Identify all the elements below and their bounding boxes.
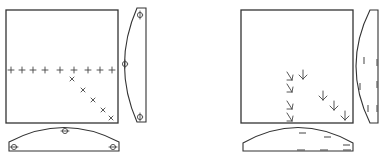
plus-icon [97, 67, 103, 73]
plus-icon [8, 67, 14, 73]
right-square-frame [241, 10, 353, 123]
x-icon [70, 77, 74, 81]
arrow-markers [287, 70, 349, 121]
right-side-lens [356, 10, 378, 123]
plus-icon [71, 67, 77, 73]
diagram-canvas [0, 0, 384, 162]
arrow-down-right-icon [287, 72, 293, 80]
x-icon [109, 116, 113, 120]
plus-icon [30, 67, 36, 73]
left-bottom-lens [9, 128, 119, 152]
bottom-lens-shape [243, 128, 353, 152]
side-lens-shape [356, 10, 378, 123]
cross-marker-diagonal [70, 77, 113, 120]
arrow-down-icon [341, 111, 349, 120]
x-icon [101, 108, 105, 112]
right-panel [241, 10, 378, 151]
arrow-down-icon [299, 70, 307, 79]
plus-icon [109, 67, 115, 73]
diagram-svg [0, 0, 384, 162]
left-side-lens [122, 8, 146, 122]
arrow-down-icon [319, 91, 327, 100]
x-icon [81, 88, 85, 92]
plus-icon [19, 67, 25, 73]
left-square-frame [6, 10, 118, 123]
arrow-down-right-icon [287, 84, 293, 92]
left-panel [6, 8, 146, 151]
right-bottom-lens [243, 128, 353, 152]
plus-icon [57, 67, 63, 73]
arrow-down-icon [330, 101, 338, 110]
arrow-down-right-icon [287, 101, 293, 109]
x-icon [91, 98, 95, 102]
plus-icon [42, 67, 48, 73]
plus-marker-row [8, 67, 115, 73]
arrow-down-right-icon [287, 113, 293, 121]
plus-icon [85, 67, 91, 73]
